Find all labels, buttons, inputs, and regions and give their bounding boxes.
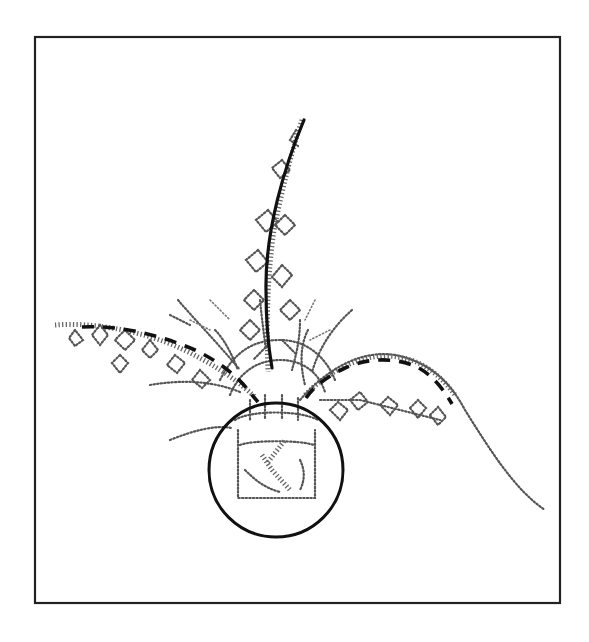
center-foliage xyxy=(190,300,335,395)
focal-circle xyxy=(209,403,343,537)
right-branch-foliage xyxy=(300,310,545,510)
diagram-frame xyxy=(35,37,560,603)
upright-branch-foliage xyxy=(240,120,302,372)
main-stem-line xyxy=(266,120,304,368)
ikebana-diagram xyxy=(0,0,589,642)
